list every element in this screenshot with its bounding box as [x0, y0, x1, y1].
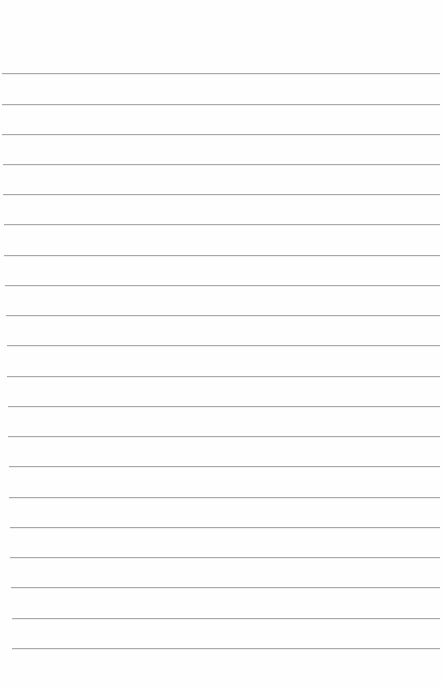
- ruled-line: [9, 497, 440, 498]
- ruled-line: [8, 436, 440, 437]
- ruled-line: [2, 73, 440, 74]
- ruled-line: [7, 345, 440, 346]
- ruled-line: [2, 134, 440, 135]
- ruled-line: [7, 376, 440, 377]
- ruled-line: [10, 527, 440, 528]
- ruled-line: [8, 406, 440, 407]
- ruled-line: [3, 194, 440, 195]
- ruled-line: [10, 557, 440, 558]
- ruled-line: [4, 224, 440, 225]
- ruled-line: [2, 104, 440, 105]
- ruled-line: [12, 618, 440, 619]
- ruled-line: [9, 466, 440, 467]
- ruled-line: [5, 285, 440, 286]
- ruled-line: [12, 648, 440, 649]
- ruled-line: [6, 315, 440, 316]
- ruled-line: [3, 164, 440, 165]
- ruled-paper-sheet: [0, 0, 442, 687]
- ruled-line: [11, 587, 440, 588]
- ruled-line: [4, 255, 440, 256]
